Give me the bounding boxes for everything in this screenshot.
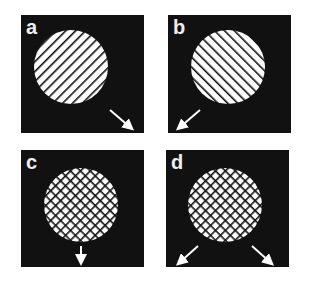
arrow-down-right-icon [252,246,271,263]
hatched-disc-diagram [21,15,144,133]
panel-d: d [166,150,289,267]
disc-single-hatch [34,30,108,104]
panel-label: c [26,151,37,173]
panel-label: b [173,16,185,38]
panel-a: a [21,15,144,133]
panel-label: a [26,16,37,38]
arrow-down-left-icon [179,110,200,128]
disc-cross-hatch [188,168,262,242]
crosshatched-disc-diagram [166,150,289,267]
arrow-down-left-icon [179,246,198,263]
arrow-down-right-icon [110,110,131,128]
disc-cross-hatch [44,168,118,242]
disc-single-hatch [191,30,265,104]
panel-c: c [21,150,144,267]
hatched-disc-diagram [168,15,291,133]
panel-b: b [168,15,291,133]
panel-label: d [171,151,183,173]
crosshatched-disc-diagram [21,150,144,267]
